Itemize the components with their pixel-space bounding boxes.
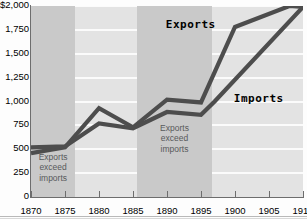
tickmark-1910 — [303, 191, 304, 198]
band-1870-1876-label: Exportsexceedimports — [31, 152, 75, 184]
imports-series-label: Imports — [234, 92, 284, 105]
band-1870-1876-label-line-0: Exports — [31, 152, 75, 163]
tickmark-1885 — [133, 191, 134, 198]
tickmark-1895 — [201, 191, 202, 198]
y-tick-1500: 1,500 — [5, 47, 29, 58]
plot-area: ExportsexceedimportsExportsexceedimports… — [31, 6, 303, 197]
band-1870-1876-label-line-2: imports — [31, 173, 75, 184]
tickmark-1870 — [31, 191, 32, 198]
bottom-rule — [0, 216, 307, 217]
bottom-rule-secondary — [0, 218, 307, 219]
band-1885-1896-label-line-2: imports — [137, 144, 212, 155]
y-tick-1000: 1,000 — [5, 95, 29, 106]
tickmark-1880 — [99, 191, 100, 198]
tickmark-1900 — [235, 191, 236, 198]
y-tick-0: 0 — [24, 190, 29, 201]
band-1870-1876-label-line-1: exceed — [31, 162, 75, 173]
y-axis-labels: 02505007501,0001,2501,5001,750$2,000 — [0, 0, 29, 203]
y-tick-750: 750 — [13, 118, 29, 129]
y-tick-250: 250 — [13, 166, 29, 177]
y-tick-500: 500 — [13, 142, 29, 153]
y-tick-2000: $2,000 — [0, 0, 29, 10]
x-tick-1910: 1910 — [283, 205, 307, 216]
trade-balance-line-chart: 02505007501,0001,2501,5001,750$2,000 Exp… — [0, 0, 307, 219]
y-tick-1250: 1,250 — [5, 71, 29, 82]
band-1885-1896-label-line-1: exceed — [137, 133, 212, 144]
tickmark-1905 — [269, 191, 270, 198]
y-axis-line — [30, 5, 31, 198]
y-tick-1750: 1,750 — [5, 23, 29, 34]
band-1885-1896-label: Exportsexceedimports — [137, 123, 212, 155]
exports-series-label: Exports — [166, 18, 216, 31]
tickmark-1890 — [167, 191, 168, 198]
band-1885-1896-label-line-0: Exports — [137, 123, 212, 134]
tickmark-1875 — [65, 191, 66, 198]
